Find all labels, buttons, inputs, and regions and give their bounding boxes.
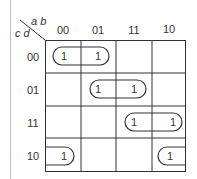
row-header-10: 10	[27, 150, 39, 162]
cell-r11-c11: 1	[131, 116, 137, 128]
cell-r00-c00: 1	[61, 50, 67, 62]
col-header-10: 10	[163, 23, 175, 35]
col-header-00: 00	[57, 24, 69, 36]
cell-r01-c01: 1	[95, 83, 101, 95]
cell-r01-c11: 1	[131, 83, 137, 95]
cell-r10-c00: 1	[61, 150, 67, 162]
cell-r10-c10: 1	[167, 150, 173, 162]
col-header-11: 11	[128, 24, 139, 36]
cell-r00-c01: 1	[95, 50, 101, 62]
cell-r11-c10: 1	[170, 116, 176, 128]
karnaugh-map: a b c d 00 01 11 10 00 01 11 10 1 1 1 1	[0, 0, 197, 179]
col-header-01: 01	[92, 24, 104, 36]
row-header-01: 01	[27, 84, 39, 96]
row-header-11: 11	[27, 117, 38, 129]
row-variable-label: c d	[15, 27, 31, 39]
row-header-00: 00	[27, 51, 39, 63]
col-variable-label: a b	[31, 15, 46, 27]
